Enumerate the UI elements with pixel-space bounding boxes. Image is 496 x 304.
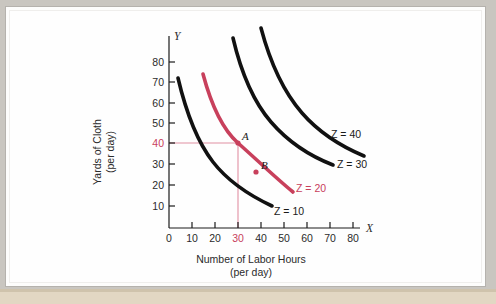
point-label-b: B <box>261 159 268 171</box>
x-tick-label-30: 30 <box>232 232 244 244</box>
point-marker-a <box>235 140 240 145</box>
page-background: 80 70 60 50 40 30 20 10 0 10 20 30 40 <box>0 0 496 304</box>
y-axis-variable-name: Y <box>174 30 182 42</box>
y-tick-label-10: 10 <box>152 200 164 212</box>
isoquant-curve-z30 <box>233 38 333 165</box>
y-axis-title: Yards of Cloth (per day) <box>91 119 116 185</box>
y-tick-label-80: 80 <box>152 56 164 68</box>
x-axis-variable-name: X <box>365 222 374 234</box>
x-axis-title-main: Number of Labor Hours <box>196 253 306 265</box>
x-tick-label-80: 80 <box>347 232 359 244</box>
page-bottom-shadow <box>0 289 496 292</box>
y-axis-tick-labels: 80 70 60 50 40 30 20 10 <box>152 56 164 212</box>
y-tick-label-50: 50 <box>152 117 164 129</box>
x-tick-label-40: 40 <box>255 232 267 244</box>
curve-label-z30: Z = 30 <box>337 158 367 170</box>
y-tick-label-20: 20 <box>152 179 164 191</box>
x-tick-label-20: 20 <box>209 232 221 244</box>
annotated-point-a: A <box>235 130 249 146</box>
y-tick-label-30: 30 <box>152 158 164 170</box>
point-marker-b <box>253 169 258 174</box>
y-tick-label-60: 60 <box>152 97 164 109</box>
curve-label-z10: Z = 10 <box>274 205 304 217</box>
curve-label-z40: Z = 40 <box>331 128 361 140</box>
x-axis-title-sub: (per day) <box>230 266 272 278</box>
y-axis-title-main: Yards of Cloth <box>91 119 103 185</box>
y-axis-ticks <box>169 62 175 206</box>
page-bottom-edge <box>0 289 496 304</box>
isoquant-curve-z10 <box>178 78 272 206</box>
point-label-a: A <box>241 130 249 142</box>
x-tick-label-0: 0 <box>166 232 172 244</box>
x-tick-label-70: 70 <box>324 232 336 244</box>
x-tick-label-10: 10 <box>186 232 198 244</box>
y-tick-label-70: 70 <box>152 76 164 88</box>
x-tick-label-60: 60 <box>301 232 313 244</box>
isoquant-chart: 80 70 60 50 40 30 20 10 0 10 20 30 40 <box>0 0 496 304</box>
x-tick-label-50: 50 <box>278 232 290 244</box>
y-axis-title-sub: (per day) <box>104 131 116 173</box>
x-axis-tick-labels: 0 10 20 30 40 50 60 70 80 <box>166 232 359 244</box>
x-axis-title: Number of Labor Hours (per day) <box>196 253 306 278</box>
guide-lines <box>169 143 238 228</box>
curve-label-z20: Z = 20 <box>296 182 326 194</box>
x-axis-ticks <box>192 222 353 228</box>
y-tick-label-40: 40 <box>152 137 164 149</box>
